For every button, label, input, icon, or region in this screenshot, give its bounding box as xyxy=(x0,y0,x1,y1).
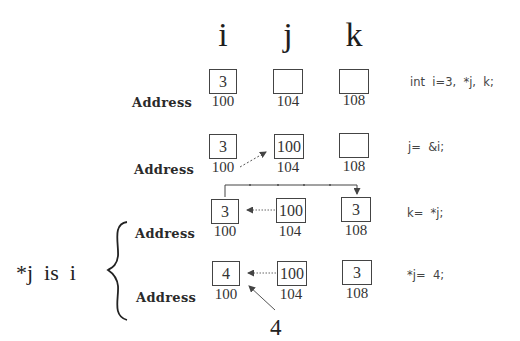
copy-bracket-arrow-icon xyxy=(225,184,357,197)
pointer-arrow-icon xyxy=(240,152,266,167)
assign-arrow-icon xyxy=(249,286,275,310)
curly-brace-icon xyxy=(108,222,127,320)
diagram-arrows xyxy=(0,0,520,341)
